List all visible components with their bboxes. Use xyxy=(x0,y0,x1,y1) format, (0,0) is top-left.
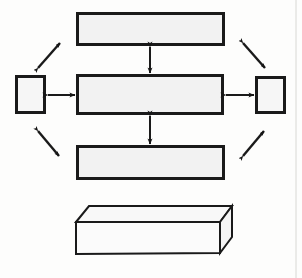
container-front-face xyxy=(76,222,220,254)
diagram-canvas xyxy=(0,0,302,278)
bottom-block xyxy=(78,147,224,179)
center-block xyxy=(78,76,223,114)
top-block xyxy=(78,14,224,45)
left-block xyxy=(17,77,45,113)
container-interior xyxy=(76,206,232,222)
right-block xyxy=(257,78,285,113)
figure-container: Block diagram with central unit, periphe… xyxy=(0,0,302,278)
open-container-box xyxy=(76,206,232,254)
